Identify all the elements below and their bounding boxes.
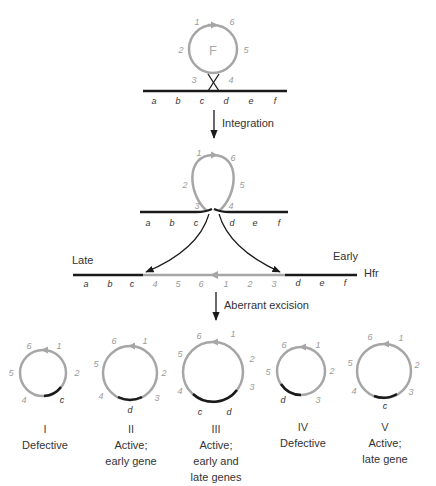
hfr-pos-6: 6 (198, 280, 203, 289)
f-pos-5: 5 (243, 46, 248, 55)
hfr-gene-b: b (107, 280, 112, 289)
p2-pos-1: 1 (142, 337, 147, 346)
product-caption-1: I Defective (22, 421, 68, 453)
s1-gene-f: f (274, 97, 277, 106)
p1-pos-2: 2 (74, 369, 79, 378)
product-desc-4-line-1: Defective (280, 435, 326, 451)
s2-pos-1: 1 (196, 149, 201, 158)
product-caption-5: V Active; late gene (362, 419, 407, 467)
product-circle-1 (20, 347, 66, 397)
late-arrow (146, 214, 209, 272)
s2-gene-a: a (145, 219, 150, 228)
p5-pos-3: 3 (408, 388, 413, 397)
product-circle-4 (277, 344, 325, 396)
product-circle-5 (357, 341, 411, 399)
p4-gene-d: d (280, 396, 285, 405)
product-numeral-3: III (191, 421, 242, 437)
crossover-mark (208, 74, 219, 91)
p5-pos-1: 1 (398, 334, 403, 343)
p3-pos-6: 6 (196, 332, 201, 341)
p1-pos-1: 1 (56, 342, 61, 351)
p3-gene-d: d (226, 408, 231, 417)
s1-gene-a: a (151, 97, 156, 106)
hfr-pos-1: 1 (223, 280, 228, 289)
product-desc-5-line-2: late gene (362, 451, 407, 467)
p1-pos-5: 5 (8, 369, 13, 378)
product-caption-2: II Active; early gene (105, 421, 156, 469)
hfr-gene-c: c (130, 280, 135, 289)
product-numeral-4: IV (280, 419, 326, 435)
product-caption-3: III Active; early and late genes (191, 421, 242, 485)
f-pos-1: 1 (194, 18, 199, 27)
f-pos-4: 4 (228, 76, 233, 85)
s2-gene-c: c (194, 219, 199, 228)
integration-label: Integration (222, 118, 274, 129)
hfr-gene-e: e (319, 279, 324, 288)
p5-pos-2: 2 (414, 361, 419, 370)
f-plasmid-label: F (209, 44, 217, 57)
hfr-pos-3: 3 (271, 280, 276, 289)
product-numeral-1: I (22, 421, 68, 437)
hfr-gene-a: a (83, 280, 88, 289)
hfr-pos-4: 4 (152, 280, 157, 289)
s2-pos-4: 4 (228, 202, 233, 211)
product-numeral-2: II (105, 421, 156, 437)
s1-gene-e: e (248, 97, 253, 106)
product-desc-3-line-2: early and (191, 453, 242, 469)
product-circle-2 (103, 343, 157, 401)
product-numeral-5: V (362, 419, 407, 435)
p3-pos-3: 3 (249, 383, 254, 392)
p5-pos-5: 5 (347, 359, 352, 368)
s1-gene-b: b (175, 97, 180, 106)
p3-pos-5: 5 (177, 350, 182, 359)
s2-pos-2: 2 (182, 181, 187, 190)
s2-gene-f: f (278, 219, 281, 228)
p2-pos-4: 4 (98, 392, 103, 401)
p1-pos-4: 4 (21, 396, 26, 405)
p4-pos-3: 3 (315, 396, 320, 405)
hfr-direction-arrow (210, 271, 218, 279)
p2-pos-5: 5 (93, 360, 98, 369)
p2-pos-6: 6 (111, 337, 116, 346)
aberrant-excision-label: Aberrant excision (224, 300, 309, 311)
product-circle-3 (183, 339, 243, 403)
chromosome-line-2-left (140, 209, 212, 212)
f-pos-6: 6 (229, 18, 234, 27)
product-desc-2-line-2: early gene (105, 453, 156, 469)
s2-gene-b: b (169, 219, 174, 228)
p5-pos-6: 6 (367, 333, 372, 342)
p2-gene-d: d (127, 406, 132, 415)
s2-pos-5: 5 (239, 181, 244, 190)
p2-pos-3: 3 (154, 394, 159, 403)
p1-pos-6: 6 (26, 342, 31, 351)
s2-pos-3: 3 (194, 202, 199, 211)
product-desc-3-line-3: late genes (191, 469, 242, 485)
hfr-pos-2: 2 (247, 280, 252, 289)
early-arrow (219, 214, 280, 272)
hfr-pos-5: 5 (175, 280, 180, 289)
product-desc-1-line-1: Defective (22, 437, 68, 453)
hfr-gene-d: d (295, 279, 300, 288)
s1-gene-d: d (223, 97, 228, 106)
p4-pos-5: 5 (265, 368, 270, 377)
p3-gene-c: c (198, 408, 203, 417)
product-caption-4: IV Defective (280, 419, 326, 451)
p3-pos-1: 1 (230, 330, 235, 339)
p5-pos-4: 4 (351, 387, 356, 396)
product-desc-5-line-1: Active; (362, 435, 407, 451)
p1-gene-c: c (60, 396, 65, 405)
product-desc-2-line-1: Active; (105, 437, 156, 453)
s2-pos-6: 6 (230, 154, 235, 163)
s2-gene-d: d (229, 219, 234, 228)
hfr-label: Hfr (364, 268, 379, 279)
chromosome-line-2-right (214, 209, 288, 212)
p3-pos-2: 2 (249, 355, 254, 364)
f-pos-3: 3 (191, 76, 196, 85)
s2-gene-e: e (252, 219, 257, 228)
p5-gene-c: c (383, 402, 388, 411)
late-label: Late (72, 255, 93, 266)
diagram-graphics (0, 0, 436, 486)
product-desc-3-line-1: Active; (191, 437, 242, 453)
p4-pos-1: 1 (315, 341, 320, 350)
f-pos-2: 2 (178, 46, 183, 55)
